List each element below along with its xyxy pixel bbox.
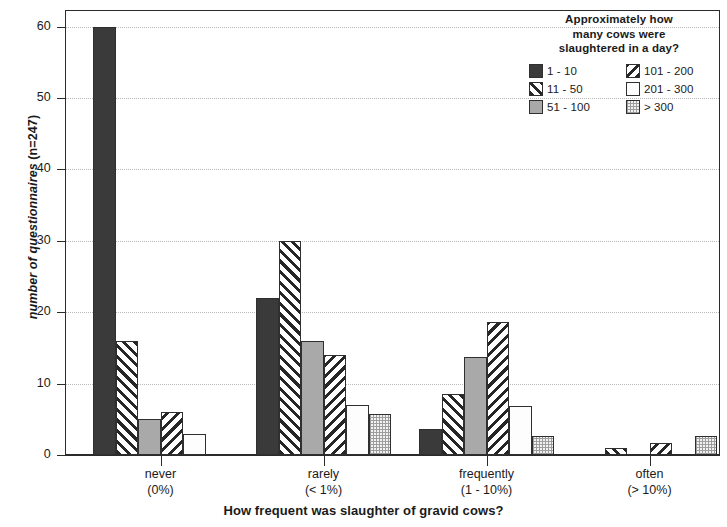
legend-swatch-icon: [626, 82, 640, 96]
bar-rarely-11to50: [279, 241, 302, 455]
x-axis-label-sub: (> 10%): [575, 482, 725, 498]
y-axis-tick: [57, 241, 66, 242]
gridline: [66, 312, 719, 313]
legend-swatch-icon: [626, 100, 640, 114]
bar-never-11to50: [116, 341, 139, 455]
x-axis-title: How frequent was slaughter of gravid cow…: [0, 503, 727, 518]
x-axis-tick: [487, 455, 488, 466]
legend-title-line-1: Approximately how: [516, 12, 722, 27]
legend-items: 1 - 10101 - 20011 - 50201 - 30051 - 100>…: [516, 64, 722, 114]
bar-frequently-300: [532, 436, 555, 455]
x-axis-label-never: never(0%): [86, 466, 236, 498]
legend-swatch-icon: [529, 64, 543, 78]
bar-frequently-11to50: [442, 394, 465, 455]
y-axis-title-text: number of questionnaires: [26, 163, 40, 319]
legend-item-label: 201 - 300: [644, 83, 694, 95]
bar-frequently-101to200: [487, 322, 510, 455]
legend-item-101to200[interactable]: 101 - 200: [626, 64, 726, 78]
legend-swatch-icon: [626, 64, 640, 78]
legend-item-label: 11 - 50: [547, 83, 583, 95]
x-axis-label-rarely: rarely(< 1%): [249, 466, 399, 498]
x-axis-tick: [650, 455, 651, 466]
x-axis-label-sub: (< 1%): [249, 482, 399, 498]
legend-item-51to100[interactable]: 51 - 100: [529, 100, 626, 114]
bar-frequently-51to100: [464, 357, 487, 456]
y-axis-tick-label: 0: [11, 447, 51, 461]
y-axis-tick: [57, 312, 66, 313]
y-axis-line: [65, 10, 66, 455]
x-axis-label-often: often(> 10%): [575, 466, 725, 498]
y-axis-tick: [57, 384, 66, 385]
bar-frequently-201to300: [509, 406, 532, 455]
legend-title-line-2: many cows were: [516, 27, 722, 42]
legend: Approximately how many cows were slaught…: [516, 6, 722, 114]
bar-frequently-1to10: [419, 429, 442, 455]
x-axis-tick: [324, 455, 325, 466]
x-axis-label-frequently: frequently(1 - 10%): [412, 466, 562, 498]
bar-rarely-51to100: [301, 341, 324, 455]
y-axis-title-note: (n=247): [26, 115, 40, 160]
gridline: [66, 169, 719, 170]
bar-chart: 0102030405060 number of questionnaires (…: [0, 0, 727, 527]
bar-often-101to200: [650, 443, 673, 455]
x-axis-label-main: rarely: [308, 467, 339, 481]
legend-item-11to50[interactable]: 11 - 50: [529, 82, 626, 96]
bar-rarely-1to10: [256, 298, 279, 455]
legend-swatch-icon: [529, 82, 543, 96]
legend-title: Approximately how many cows were slaught…: [516, 12, 722, 56]
y-axis-tick: [57, 27, 66, 28]
legend-item-label: 101 - 200: [644, 65, 694, 77]
x-axis-label-sub: (1 - 10%): [412, 482, 562, 498]
bar-never-1to10: [93, 27, 116, 455]
bar-rarely-201to300: [346, 405, 369, 455]
y-axis-tick: [57, 169, 66, 170]
legend-swatch-icon: [529, 100, 543, 114]
bar-never-101to200: [161, 412, 184, 455]
x-axis-line: [65, 455, 720, 456]
legend-item-label: > 300: [644, 101, 674, 113]
y-axis-tick: [57, 98, 66, 99]
x-axis-label-sub: (0%): [86, 482, 236, 498]
bar-rarely-300: [369, 414, 392, 455]
x-axis-label-main: never: [145, 467, 176, 481]
bar-never-51to100: [138, 419, 161, 455]
legend-item-201to300[interactable]: 201 - 300: [626, 82, 726, 96]
legend-item-label: 1 - 10: [547, 65, 577, 77]
y-axis-title: number of questionnaires (n=247): [26, 52, 40, 382]
legend-title-line-3: slaughtered in a day?: [516, 41, 722, 56]
gridline: [66, 241, 719, 242]
bar-rarely-101to200: [324, 355, 347, 455]
gridline: [66, 384, 719, 385]
x-axis-label-main: often: [636, 467, 664, 481]
legend-item-1to10[interactable]: 1 - 10: [529, 64, 626, 78]
y-axis-tick-label: 60: [11, 19, 51, 33]
legend-item-300[interactable]: > 300: [626, 100, 726, 114]
x-axis-tick: [161, 455, 162, 466]
bar-never-201to300: [183, 434, 206, 455]
legend-item-label: 51 - 100: [547, 101, 590, 113]
bar-often-300: [695, 436, 718, 455]
x-axis-label-main: frequently: [459, 467, 514, 481]
bar-often-11to50: [605, 448, 628, 455]
